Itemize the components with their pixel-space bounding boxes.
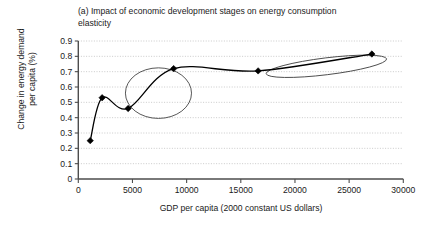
mature-stage-ellipse (265, 51, 387, 83)
y-tick-label: 0.7 (60, 67, 72, 77)
y-tick-label: 0.1 (60, 159, 72, 169)
x-tick-label: 30000 (391, 185, 415, 195)
data-point-marker (255, 68, 261, 74)
y-tick-label: 0.6 (60, 82, 72, 92)
annotation-shapes (125, 51, 387, 119)
chart-figure: (a) Impact of economic development stage… (0, 0, 437, 227)
series-markers (87, 51, 375, 144)
x-tick-label: 5000 (123, 185, 142, 195)
series-line (90, 54, 372, 141)
y-tick-label: 0.2 (60, 143, 72, 153)
x-tick-label: 15000 (229, 185, 253, 195)
x-tick-label: 20000 (283, 185, 307, 195)
y-tick-label: 0.9 (60, 36, 72, 46)
axis-ticks (75, 41, 404, 183)
y-tick-label: 0.5 (60, 97, 72, 107)
y-tick-label: 0.8 (60, 51, 72, 61)
data-point-marker (87, 137, 93, 143)
plot-area: 00.10.20.30.40.50.60.70.80.9050001000015… (0, 0, 437, 227)
gridlines (78, 41, 403, 164)
series-line-path (90, 54, 372, 141)
data-point-marker (170, 65, 176, 71)
axis-tick-labels: 00.10.20.30.40.50.60.70.80.9050001000015… (60, 36, 415, 195)
x-tick-label: 25000 (337, 185, 361, 195)
y-tick-label: 0 (68, 174, 73, 184)
y-tick-label: 0.3 (60, 128, 72, 138)
x-tick-label: 10000 (175, 185, 199, 195)
y-tick-label: 0.4 (60, 113, 72, 123)
x-tick-label: 0 (76, 185, 81, 195)
take-off-stage-circle (125, 68, 191, 119)
